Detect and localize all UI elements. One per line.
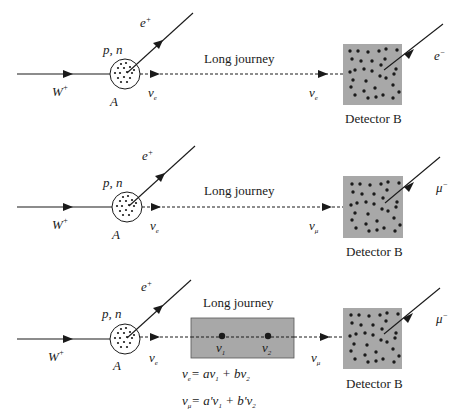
nucleus-circle (110, 59, 140, 89)
neutrino-arrow-icon (320, 333, 330, 341)
nucleon-label: p, n (101, 306, 122, 321)
detector-label: Detector B (345, 111, 402, 126)
journey-label: Long journey (203, 295, 274, 310)
detector-label: Detector B (346, 244, 403, 259)
detector-neutrino-label: νμ (309, 218, 319, 235)
nucleus-circle (112, 192, 142, 222)
equation-nu-e: νe= aν1 + bν2 (182, 366, 250, 383)
mass-state-1-dot (219, 333, 225, 339)
journey-label: Long journey (204, 51, 275, 66)
detector-label: Detector B (346, 376, 403, 391)
source-neutrino-label: νe (150, 218, 159, 235)
oscillation-region-box (191, 318, 294, 358)
nucleus-label: A (112, 358, 121, 373)
w-boson-label: W+ (52, 83, 68, 99)
panel-2: W+ p, n A e+ νe Long journey νμ (17, 146, 448, 259)
muon-label: μ− (435, 311, 448, 326)
panel-1: W+ p, n A e+ νe Long journey νe (17, 13, 445, 126)
source-neutrino-label: νe (148, 85, 157, 102)
neutrino-arrow-icon (150, 70, 160, 78)
nucleus-label: A (109, 94, 118, 109)
w-boson-arrow-icon (63, 335, 73, 343)
detector-neutrino-label: νμ (311, 350, 321, 367)
w-boson-label: W+ (52, 216, 68, 232)
detector-box (343, 308, 402, 369)
nucleus-circle (110, 324, 140, 354)
detector-neutrino-label: νe (309, 85, 318, 102)
nucleon-label: p, n (102, 175, 123, 190)
muon-label: μ− (435, 180, 448, 195)
w-boson-label: W+ (48, 348, 64, 364)
w-boson-arrow-icon (63, 70, 73, 78)
positron-label: e+ (140, 15, 151, 30)
electron-label: e− (434, 48, 445, 63)
nucleon-label: p, n (102, 42, 123, 57)
nucleus-label: A (111, 227, 120, 242)
panel-3: W+ p, n A e+ νe Long journey ν1 ν2 νμ νe… (17, 279, 448, 410)
positron-label: e+ (141, 279, 152, 294)
neutrino-arrow-icon (151, 203, 161, 211)
equation-nu-mu: νμ= a'ν1 + b'ν2 (182, 393, 256, 410)
neutrino-oscillation-diagram: W+ p, n A e+ νe Long journey νe (0, 0, 462, 417)
w-boson-arrow-icon (63, 203, 73, 211)
neutrino-arrow-icon (322, 203, 332, 211)
journey-label: Long journey (204, 183, 275, 198)
mass-state-2-dot (265, 333, 271, 339)
source-neutrino-label: νe (149, 350, 158, 367)
positron-label: e+ (142, 148, 153, 163)
neutrino-arrow-icon (150, 333, 160, 341)
neutrino-arrow-icon (318, 70, 328, 78)
